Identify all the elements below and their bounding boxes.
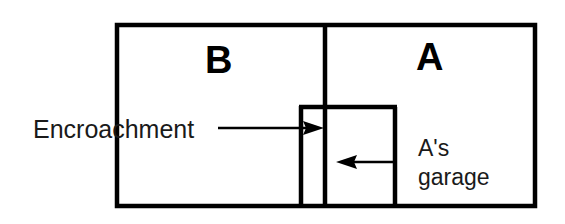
parcel-label-b: B: [205, 41, 232, 79]
parcel-label-a: A: [416, 38, 443, 76]
garage-label: A's garage: [418, 134, 490, 192]
encroachment-label: Encroachment: [33, 116, 194, 143]
arrow-left-icon: [336, 155, 357, 169]
property-encroachment-diagram: B A Encroachment A's garage: [0, 0, 565, 224]
garage-label-line-2: garage: [418, 163, 490, 192]
garage-label-line-1: A's: [418, 134, 490, 163]
arrow-right-icon: [303, 121, 324, 135]
